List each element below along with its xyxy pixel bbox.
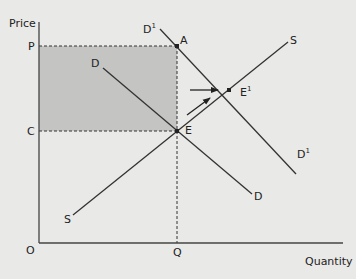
- point-a-label: A: [180, 34, 188, 47]
- x-axis-label: Quantity: [305, 255, 353, 268]
- shift-arrow-diagonal: [187, 98, 210, 115]
- supply-top-label: S: [290, 34, 297, 47]
- point-a: [175, 44, 179, 48]
- shaded-region: [39, 46, 177, 131]
- point-e1-label: E1: [240, 85, 251, 99]
- origin-label: O: [26, 244, 35, 257]
- quantity-q-label: Q: [173, 246, 182, 259]
- y-axis-label: Price: [9, 17, 36, 30]
- economics-diagram: Price Quantity O P C Q A E E1 D D D1 D1 …: [0, 0, 356, 279]
- demand-d1-bottom-label: D1: [297, 147, 310, 161]
- point-e: [175, 129, 179, 133]
- demand-d1-top-label: D1: [143, 22, 156, 36]
- point-e1: [227, 88, 231, 92]
- supply-bottom-label: S: [64, 213, 71, 226]
- demand-curve-d1: [160, 29, 296, 174]
- price-p-label: P: [28, 40, 35, 53]
- price-c-label: C: [27, 125, 35, 138]
- demand-d-bottom-label: D: [254, 190, 262, 203]
- demand-d-top-label: D: [91, 57, 99, 70]
- point-e-label: E: [185, 124, 192, 137]
